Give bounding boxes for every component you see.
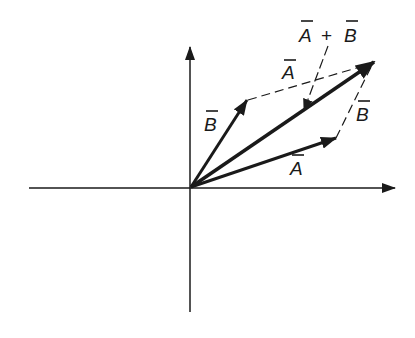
label-sum-b: B bbox=[344, 25, 357, 46]
vector-a bbox=[191, 138, 336, 187]
svg-text:B: B bbox=[356, 104, 369, 125]
label-a-top: A bbox=[281, 60, 296, 83]
svg-text:B: B bbox=[204, 114, 217, 135]
label-b-right: B bbox=[356, 101, 370, 125]
vector-addition-diagram: A + B A B B A bbox=[0, 0, 415, 338]
svg-text:A: A bbox=[281, 62, 295, 83]
label-b-left: B bbox=[204, 111, 218, 135]
svg-text:A: A bbox=[289, 158, 303, 179]
label-a-bottom: A bbox=[289, 155, 304, 179]
label-sum: A + B bbox=[298, 21, 358, 46]
vector-b bbox=[191, 100, 247, 187]
label-sum-plus: + bbox=[321, 25, 332, 46]
dashed-a-edge bbox=[248, 64, 370, 100]
label-sum-a: A bbox=[298, 25, 312, 46]
